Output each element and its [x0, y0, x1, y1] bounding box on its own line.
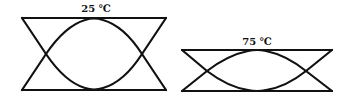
label-25c: 25 ℃ [81, 3, 110, 14]
lower-curve [182, 50, 332, 91]
lower-curve [22, 18, 166, 90]
upper-curve [182, 50, 332, 91]
upper-curve [22, 19, 166, 91]
eye-diagram-75c [182, 50, 332, 91]
label-75c: 75 ℃ [242, 36, 271, 47]
eye-diagram-figure: 25 ℃ 75 ℃ [0, 0, 352, 103]
eye-diagram-25c [22, 18, 166, 90]
